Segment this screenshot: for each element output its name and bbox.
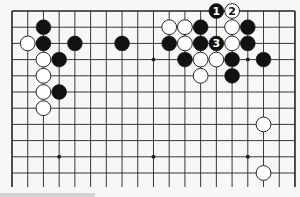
black-stone-icon	[178, 52, 193, 67]
black-stone-icon	[36, 36, 51, 51]
black-stone-icon	[162, 36, 177, 51]
white-stone	[20, 36, 35, 51]
white-stone-icon	[36, 85, 51, 100]
black-stone	[178, 52, 193, 67]
white-stone-move-2: 2	[225, 4, 240, 19]
move-number-label: 2	[228, 5, 236, 18]
white-stone-icon	[36, 101, 51, 116]
black-stone-icon	[225, 52, 240, 67]
black-stone	[225, 52, 240, 67]
white-stone	[193, 68, 208, 83]
black-stone-icon	[193, 20, 208, 35]
go-board[interactable]: 123	[0, 0, 300, 197]
white-stone-icon	[256, 117, 271, 132]
black-stone-icon	[52, 52, 67, 67]
white-stone	[162, 20, 177, 35]
move-number-label: 1	[213, 5, 221, 18]
white-stone-icon	[209, 52, 224, 67]
go-board-grid[interactable]: 123	[0, 0, 300, 197]
black-stone	[36, 20, 51, 35]
black-stone	[52, 52, 67, 67]
white-stone	[193, 52, 208, 67]
white-stone	[178, 20, 193, 35]
black-stone-icon	[67, 36, 82, 51]
black-stone	[67, 36, 82, 51]
black-stone	[256, 52, 271, 67]
white-stone-icon	[225, 20, 240, 35]
star-point-icon	[246, 155, 250, 159]
star-point-icon	[246, 58, 250, 62]
black-stone-icon	[256, 52, 271, 67]
black-stone	[162, 36, 177, 51]
black-stone	[225, 68, 240, 83]
white-stone	[36, 85, 51, 100]
white-stone	[178, 36, 193, 51]
white-stone-icon	[193, 52, 208, 67]
white-stone	[209, 52, 224, 67]
white-stone	[256, 117, 271, 132]
white-stone	[36, 101, 51, 116]
black-stone	[52, 85, 67, 100]
white-stone-icon	[36, 68, 51, 83]
white-stone-icon	[178, 20, 193, 35]
star-point-icon	[151, 58, 155, 62]
black-stone	[240, 20, 255, 35]
star-point-icon	[57, 155, 61, 159]
bottom-scroll-strip	[0, 193, 95, 197]
white-stone-icon	[36, 52, 51, 67]
black-stone-move-1: 1	[209, 4, 224, 19]
black-stone	[36, 36, 51, 51]
white-stone-icon	[256, 166, 271, 181]
black-stone-icon	[225, 68, 240, 83]
black-stone-icon	[115, 36, 130, 51]
white-stone-icon	[225, 36, 240, 51]
white-stone	[36, 52, 51, 67]
white-stone-icon	[20, 36, 35, 51]
black-stone-icon	[36, 20, 51, 35]
black-stone-icon	[52, 85, 67, 100]
white-stone-icon	[178, 36, 193, 51]
white-stone	[256, 166, 271, 181]
white-stone	[225, 20, 240, 35]
black-stone	[193, 36, 208, 51]
black-stone	[193, 20, 208, 35]
black-stone-icon	[240, 36, 255, 51]
white-stone-icon	[162, 20, 177, 35]
black-stone-icon	[240, 20, 255, 35]
white-stone	[225, 36, 240, 51]
white-stone	[36, 68, 51, 83]
star-point-icon	[151, 155, 155, 159]
black-stone-icon	[193, 36, 208, 51]
black-stone	[240, 36, 255, 51]
white-stone-icon	[193, 68, 208, 83]
black-stone	[115, 36, 130, 51]
move-number-label: 3	[213, 37, 221, 50]
black-stone-move-3: 3	[209, 36, 224, 51]
